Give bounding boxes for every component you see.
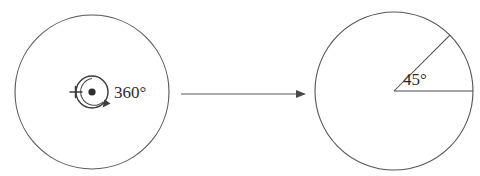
label-360-degrees: 360° bbox=[114, 83, 146, 102]
left-circle-center-dot bbox=[88, 88, 95, 95]
rotation-arrowhead-icon bbox=[103, 100, 111, 108]
rotation-diagram: 360° 45° bbox=[0, 0, 480, 176]
diagram-canvas: 360° 45° bbox=[0, 0, 480, 176]
label-45-degrees: 45° bbox=[403, 70, 427, 89]
transform-arrow-head-icon bbox=[296, 90, 306, 98]
